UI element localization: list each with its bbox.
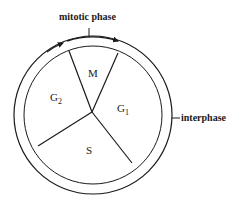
interphase-label: interphase — [181, 112, 227, 123]
segment-label-g1: G1 — [117, 102, 129, 117]
divider-m-g2 — [69, 51, 92, 112]
segment-label-g2: G2 — [50, 91, 62, 106]
segment-label-m: M — [88, 67, 98, 79]
mitotic-phase-label: mitotic phase — [59, 11, 117, 22]
divider-g2-s — [38, 112, 92, 146]
segment-label-s: S — [86, 144, 92, 156]
divider-m-g1 — [92, 53, 118, 112]
mitotic-arc-left-arrow — [47, 43, 63, 52]
cell-cycle-diagram: mitotic phase interphase M G1 S G2 — [0, 0, 242, 211]
divider-s-g1 — [92, 112, 132, 163]
outer-ring — [14, 36, 172, 194]
